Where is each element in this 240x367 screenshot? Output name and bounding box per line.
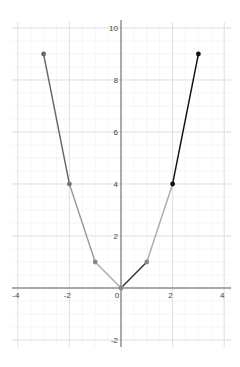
y-tick-label: 4	[114, 180, 119, 189]
x-tick-label: 2	[168, 291, 173, 300]
y-tick-label: 10	[109, 24, 118, 33]
x-tick-label: 4	[220, 291, 225, 300]
data-point	[144, 260, 149, 265]
x-tick-label: 0	[115, 291, 120, 300]
data-point	[41, 52, 46, 57]
data-point	[93, 260, 98, 265]
tick-labels: -4-2024-2246810	[12, 24, 225, 345]
x-tick-label: -4	[12, 291, 20, 300]
y-tick-label: 6	[114, 128, 119, 137]
data-point	[196, 52, 201, 57]
y-tick-label: 2	[114, 232, 119, 241]
parabola-plot: -4-2024-2246810	[0, 0, 240, 367]
data-point	[119, 286, 124, 291]
y-tick-label: -2	[111, 336, 119, 345]
data-point	[67, 182, 72, 187]
y-tick-label: 8	[114, 76, 119, 85]
x-tick-label: -2	[64, 291, 72, 300]
data-point	[170, 182, 175, 187]
